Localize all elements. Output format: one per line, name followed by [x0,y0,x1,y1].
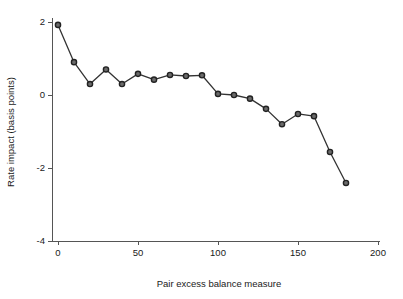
axes [52,18,380,241]
data-point-marker [231,92,236,97]
x-tick-label: 200 [370,247,386,258]
y-tick-label: 0 [40,89,45,100]
data-point-marker [103,67,108,72]
data-point-marker [263,106,268,111]
data-point-marker [151,77,156,82]
data-point-marker [199,73,204,78]
data-point-marker [343,180,348,185]
data-point-marker [327,149,332,154]
x-tick-label: 150 [290,247,306,258]
y-tick-label: 2 [40,16,45,27]
chart-canvas: 20-2-4050100150200 Pair excess balance m… [0,0,403,299]
x-axis-title: Pair excess balance measure [157,278,282,289]
data-point-marker [215,91,220,96]
data-point-marker [87,81,92,86]
y-tick-label: -2 [37,162,45,173]
data-point-marker [71,60,76,65]
tick-labels: 20-2-4050100150200 [37,16,386,258]
chart-figure: 20-2-4050100150200 Pair excess balance m… [0,0,403,299]
x-tick-label: 0 [55,247,60,258]
data-point-marker [295,111,300,116]
data-series [58,25,346,183]
data-point-marker [119,81,124,86]
y-axis-title: Rate impact (basis points) [5,77,16,187]
data-point-marker [135,71,140,76]
series-line-rate-impact [58,25,346,183]
data-point-marker [183,73,188,78]
x-tick-label: 100 [210,247,226,258]
data-point-marker [167,72,172,77]
data-point-marker [311,114,316,119]
y-tick-label: -4 [37,235,45,246]
x-tick-label: 50 [133,247,144,258]
data-point-marker [247,96,252,101]
data-markers [55,22,348,185]
data-point-marker [279,122,284,127]
data-point-marker [55,22,60,27]
tick-marks [48,22,378,245]
